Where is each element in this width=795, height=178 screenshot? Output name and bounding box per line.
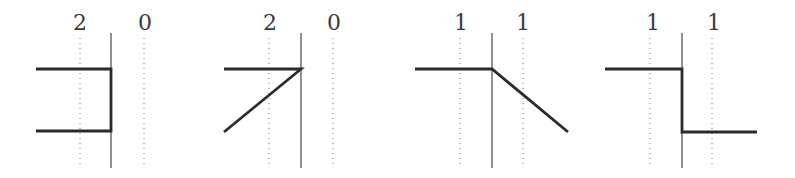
panel-4-label-left: 1 [646,10,660,35]
panel-2: 2 0 [224,10,341,168]
panel-4-graph [605,69,757,132]
panel-1: 2 0 [36,10,152,168]
panel-1-graph [36,69,111,131]
panel-2-graph [224,69,301,132]
panel-4-label-right: 1 [707,10,721,35]
panel-4: 1 1 [605,10,757,168]
panel-3-label-right: 1 [516,10,530,35]
panel-1-label-right: 0 [138,10,152,35]
panel-3-label-left: 1 [454,10,468,35]
panel-2-label-left: 2 [263,10,277,35]
panel-1-label-left: 2 [73,10,87,35]
diagram-canvas: 2 0 2 0 1 1 1 1 [0,0,795,178]
panel-3: 1 1 [415,10,568,168]
panel-2-label-right: 0 [327,10,341,35]
